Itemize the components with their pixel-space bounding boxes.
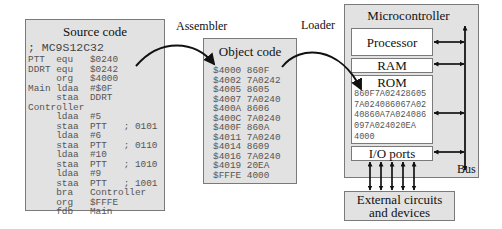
- loader-arrow: [282, 52, 361, 89]
- connectors: [0, 0, 502, 229]
- io-external-arrows: [370, 162, 414, 190]
- assembler-arrow: [136, 46, 214, 67]
